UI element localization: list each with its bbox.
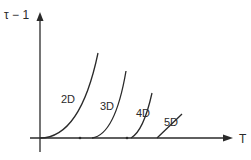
x-axis-label: T: [239, 132, 247, 146]
x-axis-tick: [126, 137, 129, 140]
y-axis-label: τ − 1: [4, 8, 29, 22]
curve-label-4d: 4D: [136, 107, 150, 119]
curve-label-5d: 5D: [164, 116, 178, 128]
diagram-canvas: τ − 1 T 2D 3D 4D 5D: [0, 0, 251, 160]
curve-label-3d: 3D: [100, 100, 114, 112]
curve-label-2d: 2D: [61, 93, 75, 105]
x-axis-arrow-icon: [223, 135, 233, 142]
y-axis-arrow-icon: [37, 12, 44, 21]
x-axis-tick: [79, 137, 82, 140]
